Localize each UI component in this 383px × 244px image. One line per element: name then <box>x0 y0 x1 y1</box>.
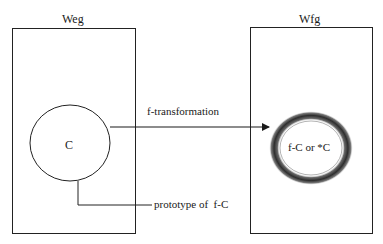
prototype-connector <box>78 181 152 205</box>
weg-title: Weg <box>62 13 84 25</box>
connector-label: prototype of f-C <box>154 199 228 210</box>
source-node-label: C <box>65 139 73 151</box>
wfg-title: Wfg <box>299 13 320 25</box>
weg-box <box>13 29 136 234</box>
arrow-label: f-transformation <box>147 106 219 117</box>
target-node-label: f-C or *C <box>288 142 330 153</box>
